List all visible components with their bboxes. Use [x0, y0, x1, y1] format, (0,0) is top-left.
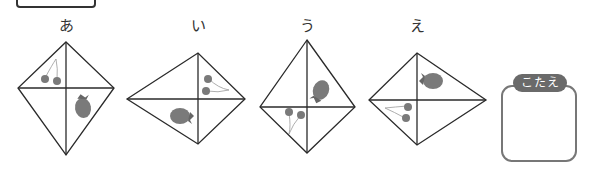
strawberry-icon	[73, 93, 93, 119]
kite-a[interactable]	[18, 42, 114, 155]
strawberry-icon	[309, 78, 332, 106]
kite-u[interactable]	[260, 40, 355, 153]
answer-box[interactable]	[501, 85, 577, 162]
cherries-icon	[202, 75, 229, 95]
kite-i[interactable]	[127, 53, 245, 144]
strawberry-icon	[170, 108, 194, 124]
answer-label: こたえ	[513, 74, 567, 92]
strawberry-icon	[419, 73, 443, 89]
cherries-icon	[285, 108, 305, 134]
kite-e[interactable]	[369, 53, 486, 145]
